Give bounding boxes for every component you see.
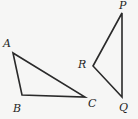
triangle-abc (13, 53, 85, 97)
vertex-label-a: A (2, 37, 11, 50)
vertex-label-q: Q (119, 101, 128, 114)
vertex-label-c: C (88, 97, 97, 110)
vertex-label-p: P (118, 0, 127, 12)
vertex-label-r: R (77, 58, 86, 71)
triangles-diagram: A B C P R Q (0, 0, 138, 119)
geometry-figure: A B C P R Q (0, 0, 138, 119)
triangle-prq (93, 13, 122, 97)
vertex-label-b: B (12, 102, 21, 115)
